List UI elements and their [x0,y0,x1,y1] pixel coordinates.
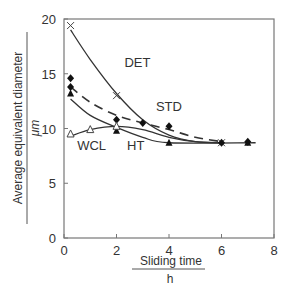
x-axis-label: Sliding time [140,254,202,268]
x-tick-label: 8 [270,243,277,258]
marker-ht [67,89,74,96]
marker-std [67,74,74,82]
series-labels: DETSTDWCLHT [77,55,182,153]
chart: 0246805101520 DETSTDWCLHT Sliding time h… [0,0,293,298]
y-tick-label: 20 [42,12,56,27]
y-tick-label: 0 [49,231,56,246]
marker-std [139,119,146,127]
y-tick-label: 15 [42,67,56,82]
label-wcl: WCL [77,138,106,153]
label-ht: HT [127,138,144,153]
x-tick-label: 2 [113,243,120,258]
series-curves [71,30,256,143]
x-tick-label: 0 [60,243,67,258]
x-axis-unit: h [167,272,174,286]
x-tick-label: 6 [218,243,225,258]
curve-det [71,30,222,143]
y-tick-label: 10 [42,122,56,137]
y-axis-unit: μm [28,120,42,138]
marker-det [67,22,74,29]
marker-wcl [67,130,74,137]
y-axis-label: Average equivalent diameter [11,52,25,205]
label-det: DET [124,55,150,70]
label-std: STD [156,99,182,114]
curve-std [71,87,222,142]
y-tick-label: 5 [49,176,56,191]
